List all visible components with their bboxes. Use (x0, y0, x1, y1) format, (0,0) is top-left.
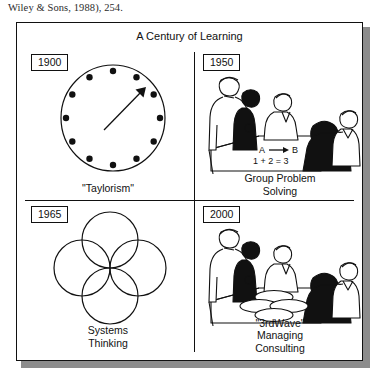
figure-frame: A Century of Learning 1900 (16, 22, 363, 361)
board-text-equation: 1 + 2 = 3 (253, 156, 289, 166)
panel-2000: 2000 (197, 204, 363, 350)
panel-caption-2000: "3rdWave" Managing Consulting (197, 317, 363, 355)
quadrant-grid: 1900 (25, 52, 354, 352)
panel-caption-1900: "Taylorism" (25, 182, 191, 195)
panel-1950: 1950 (197, 52, 363, 198)
board-text-b: B (292, 145, 298, 155)
caption-line: Solving (197, 185, 363, 198)
figure-title: A Century of Learning (17, 30, 362, 42)
vertical-divider (194, 52, 195, 352)
panel-caption-1950: Group Problem Solving (197, 172, 363, 197)
caption-line: Consulting (197, 342, 363, 355)
caption-line: Group Problem (197, 172, 363, 185)
panel-1965: 1965 Systems Thinking (25, 204, 191, 350)
caption-line: Systems (25, 324, 191, 337)
caption-line: Managing (197, 329, 363, 342)
caption-line: "Taylorism" (25, 182, 191, 195)
page-running-caption: Wiley & Sons, 1988), 254. (8, 2, 123, 13)
clock-icon (25, 52, 191, 198)
panel-1900: 1900 (25, 52, 191, 198)
horizontal-divider (25, 200, 354, 201)
caption-line: "3rdWave" (197, 317, 363, 330)
caption-line: Thinking (25, 337, 191, 350)
board-text-a: A (259, 145, 265, 155)
panel-caption-1965: Systems Thinking (25, 324, 191, 349)
